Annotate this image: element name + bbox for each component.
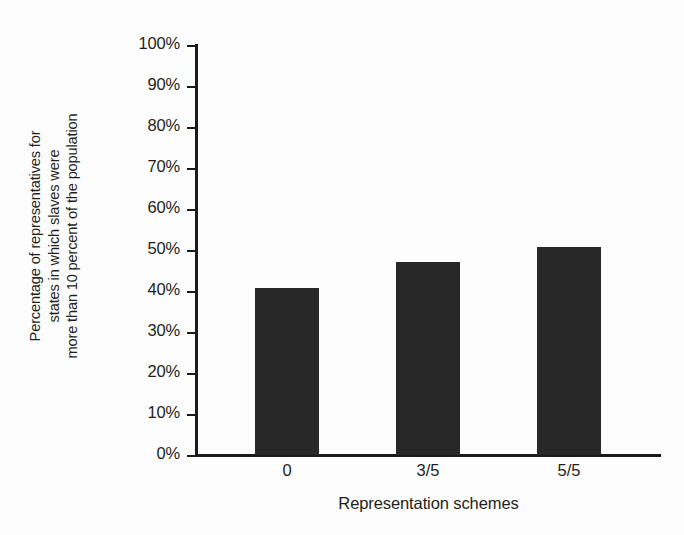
y-tick-label-70: 70% <box>60 157 180 176</box>
y-tick-label-30: 30% <box>60 321 180 340</box>
x-tick-label-3-5: 3/5 <box>368 461 488 480</box>
y-tick-mark-20 <box>187 373 196 375</box>
y-tick-label-80: 80% <box>60 116 180 135</box>
y-tick-label-40: 40% <box>60 280 180 299</box>
y-tick-mark-50 <box>187 250 196 252</box>
y-tick-label-50: 50% <box>60 239 180 258</box>
bar-chart-figure: Percentage of representatives for states… <box>0 0 684 535</box>
y-tick-mark-30 <box>187 332 196 334</box>
bar-category-0 <box>255 288 319 455</box>
bar-category-5-5 <box>537 247 601 455</box>
y-tick-mark-100 <box>187 45 196 47</box>
y-tick-mark-70 <box>187 168 196 170</box>
y-tick-mark-80 <box>187 127 196 129</box>
y-tick-label-90: 90% <box>60 75 180 94</box>
bar-category-3-5 <box>396 262 460 455</box>
y-tick-mark-90 <box>187 86 196 88</box>
y-tick-label-60: 60% <box>60 198 180 217</box>
y-tick-label-20: 20% <box>60 362 180 381</box>
y-tick-mark-40 <box>187 291 196 293</box>
x-tick-label-5-5: 5/5 <box>509 461 629 480</box>
y-tick-mark-0 <box>187 455 196 457</box>
y-tick-label-100: 100% <box>60 34 180 53</box>
y-tick-mark-60 <box>187 209 196 211</box>
y-tick-mark-10 <box>187 414 196 416</box>
x-axis-title: Representation schemes <box>197 494 660 513</box>
y-tick-label-10: 10% <box>60 403 180 422</box>
x-tick-label-0: 0 <box>227 461 347 480</box>
y-axis-title-line-1: Percentage of representatives for <box>26 131 45 342</box>
y-tick-label-0: 0% <box>60 444 180 463</box>
